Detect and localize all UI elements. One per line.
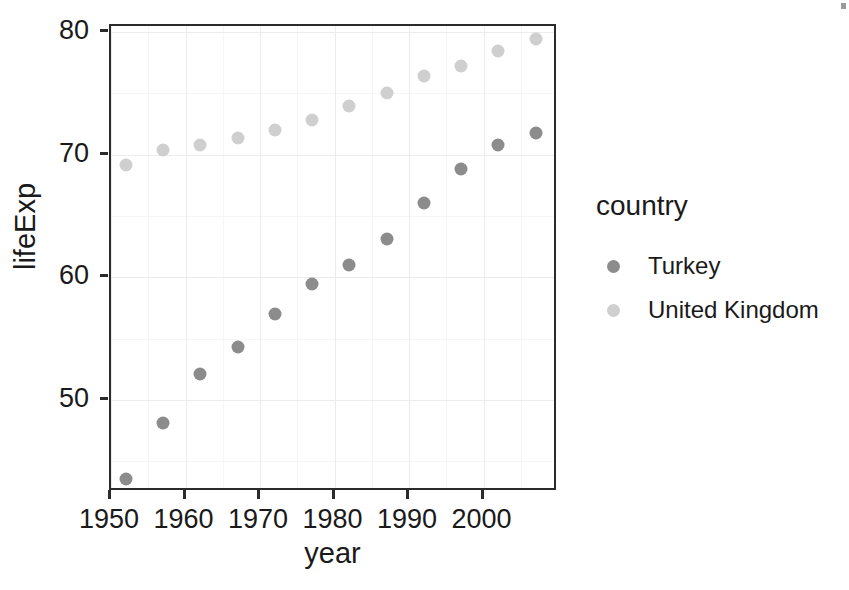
- y-tick-mark: [100, 29, 108, 32]
- gridline-minor-x: [297, 26, 298, 488]
- gridline-major-x: [186, 26, 187, 488]
- gridline-major-x: [484, 26, 485, 488]
- data-point: [455, 60, 468, 73]
- x-tick-mark: [257, 490, 260, 499]
- x-tick-label: 1950: [79, 504, 139, 535]
- data-point: [343, 99, 356, 112]
- data-point: [492, 138, 505, 151]
- x-axis-title: year: [109, 537, 556, 570]
- data-point: [306, 114, 319, 127]
- legend-swatch-dot-icon: [607, 304, 620, 317]
- gridline-major-y: [111, 400, 554, 401]
- data-point: [119, 158, 132, 171]
- gridline-minor-x: [372, 26, 373, 488]
- x-tick-mark: [332, 490, 335, 499]
- x-tick-label: 1960: [153, 504, 213, 535]
- data-point: [492, 44, 505, 57]
- legend-key: [596, 260, 630, 273]
- data-point: [268, 124, 281, 137]
- x-tick-label: 1990: [377, 504, 437, 535]
- legend-key: [596, 304, 630, 317]
- data-point: [529, 126, 542, 139]
- data-point: [268, 308, 281, 321]
- y-tick-mark: [100, 274, 108, 277]
- legend-title: country: [596, 190, 846, 222]
- gridline-major-x: [111, 26, 112, 488]
- gridline-minor-x: [446, 26, 447, 488]
- gridline-major-y: [111, 155, 554, 156]
- legend-item-label: Turkey: [648, 252, 720, 280]
- data-point: [417, 196, 430, 209]
- data-point: [380, 233, 393, 246]
- legend-item[interactable]: Turkey: [596, 244, 846, 288]
- data-point: [119, 472, 132, 485]
- data-point: [529, 33, 542, 46]
- gridline-minor-y: [111, 339, 554, 340]
- data-point: [306, 277, 319, 290]
- gridline-minor-x: [521, 26, 522, 488]
- legend-swatch-dot-icon: [607, 260, 620, 273]
- gridline-minor-y: [111, 216, 554, 217]
- gridline-major-x: [335, 26, 336, 488]
- x-tick-label: 2000: [451, 504, 511, 535]
- scatter-plot-figure: 50607080 195019601970198019902000 year l…: [0, 0, 849, 590]
- legend-item[interactable]: United Kingdom: [596, 288, 846, 332]
- gridline-minor-y: [111, 461, 554, 462]
- x-tick-label: 1970: [228, 504, 288, 535]
- gridline-major-x: [409, 26, 410, 488]
- x-tick-mark: [406, 490, 409, 499]
- x-tick-mark: [108, 490, 111, 499]
- y-tick-label: 50: [4, 383, 89, 414]
- x-tick-label: 1980: [302, 504, 362, 535]
- gridline-minor-y: [111, 93, 554, 94]
- y-axis-title: lifeExp: [9, 147, 42, 307]
- legend-items: TurkeyUnited Kingdom: [596, 244, 846, 332]
- plot-panel: [109, 24, 556, 490]
- data-point: [455, 163, 468, 176]
- x-tick-mark: [481, 490, 484, 499]
- gridline-major-y: [111, 277, 554, 278]
- y-tick-label: 80: [4, 15, 89, 46]
- data-point: [194, 368, 207, 381]
- gridline-major-y: [111, 32, 554, 33]
- data-point: [157, 417, 170, 430]
- data-point: [231, 341, 244, 354]
- data-point: [194, 138, 207, 151]
- data-point: [380, 87, 393, 100]
- gridline-minor-x: [148, 26, 149, 488]
- data-point: [343, 259, 356, 272]
- legend: country TurkeyUnited Kingdom: [596, 190, 846, 332]
- data-point: [157, 143, 170, 156]
- legend-item-label: United Kingdom: [648, 296, 819, 324]
- gridline-major-x: [260, 26, 261, 488]
- y-tick-mark: [100, 152, 108, 155]
- data-point: [231, 131, 244, 144]
- data-point: [417, 70, 430, 83]
- scan-artifact: [841, 3, 846, 9]
- y-tick-mark: [100, 397, 108, 400]
- x-tick-mark: [183, 490, 186, 499]
- gridline-minor-x: [223, 26, 224, 488]
